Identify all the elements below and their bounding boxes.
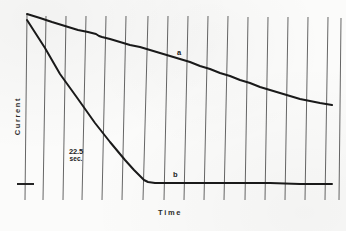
x-axis-label: Time <box>158 208 182 217</box>
grid-line <box>265 17 268 200</box>
grid-line <box>245 17 248 200</box>
grid-line <box>325 17 328 200</box>
grid-line <box>305 17 308 200</box>
grid-interval-annotation: 22.5 sec. <box>58 148 94 163</box>
annotation-unit: sec. <box>58 156 94 163</box>
grid-line <box>63 16 66 200</box>
chart-plot-area <box>0 0 346 231</box>
y-axis-label: Current <box>13 97 22 135</box>
grid-lines <box>25 14 341 200</box>
grid-line <box>224 16 228 200</box>
curve-label-a: a <box>177 48 181 57</box>
grid-line <box>164 16 168 200</box>
grid-line <box>204 16 208 200</box>
grid-line <box>184 16 188 200</box>
grid-line <box>285 17 288 200</box>
figure-container: Current Time 22.5 sec. a b <box>0 0 346 231</box>
grid-line <box>143 16 148 200</box>
grid-line <box>102 16 106 200</box>
grid-line <box>339 18 341 200</box>
grid-line <box>25 14 27 200</box>
grid-line <box>43 16 46 200</box>
curve-label-b: b <box>173 170 178 179</box>
